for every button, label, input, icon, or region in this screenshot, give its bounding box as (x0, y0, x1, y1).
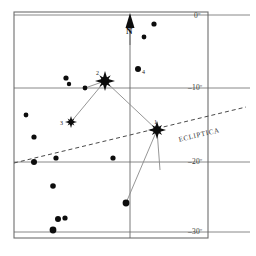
declination-label-0: 0º (194, 12, 200, 20)
field-star-12 (62, 215, 67, 220)
north-label: N (126, 27, 133, 36)
field-star-13 (50, 227, 57, 234)
declination-label-1: –10º (188, 84, 202, 92)
constellation-lines (71, 81, 160, 203)
field-star-11 (55, 216, 61, 222)
field-star-7 (31, 159, 37, 165)
star-chart-figure: 0º–10º–20º–30ºECLIPTICA1234N (0, 0, 256, 256)
field-star-9 (110, 155, 115, 160)
declination-gridlines (14, 15, 250, 232)
field-star-8 (53, 155, 58, 160)
chart-frame (14, 12, 208, 238)
star-label-1: 1 (154, 119, 157, 125)
field-star-3 (67, 82, 71, 86)
named-stars (65, 66, 166, 139)
star-label-3: 3 (60, 120, 63, 126)
field-star-6 (31, 134, 36, 139)
named-star-3 (65, 116, 77, 128)
field-star-5 (24, 113, 29, 118)
field-star-10 (50, 183, 56, 189)
chart-frame-rect (14, 12, 208, 238)
star-label-2: 2 (96, 70, 99, 76)
field-star-1 (142, 35, 147, 40)
field-star-14 (123, 200, 130, 207)
field-star-2 (63, 75, 68, 80)
declination-label-3: –30º (188, 228, 202, 236)
field-star-4 (83, 86, 88, 91)
star-label-4: 4 (142, 69, 145, 75)
constellation-segment-3 (126, 130, 157, 203)
field-stars (24, 21, 157, 233)
field-star-0 (151, 21, 156, 26)
named-star-4 (135, 66, 141, 72)
declination-label-2: –20º (188, 158, 202, 166)
